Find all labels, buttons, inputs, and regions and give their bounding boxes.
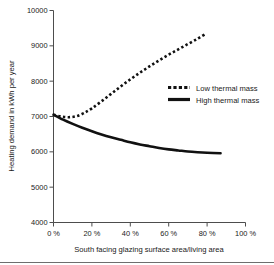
y-axis-title: Heating demand in kWh per year bbox=[7, 60, 16, 171]
x-axis: 0 %20 %40 %60 %80 %100 % bbox=[47, 223, 256, 238]
y-axis-ticks bbox=[50, 11, 54, 223]
plot-series bbox=[54, 34, 221, 153]
y-tick-label: 10000 bbox=[27, 6, 48, 15]
y-tick-label: 4000 bbox=[31, 218, 47, 227]
y-tick-label: 7000 bbox=[31, 112, 47, 121]
x-tick-label: 80 % bbox=[199, 229, 216, 238]
y-tick-label: 6000 bbox=[31, 147, 47, 156]
legend-label-high-thermal-mass: High thermal mass bbox=[196, 96, 260, 105]
x-tick-label: 100 % bbox=[235, 229, 256, 238]
y-axis: 40005000600070008000900010000 bbox=[27, 6, 54, 227]
x-tick-label: 40 % bbox=[122, 229, 139, 238]
x-axis-ticks bbox=[54, 223, 246, 227]
x-axis-title: South facing glazing surface area/living… bbox=[74, 245, 224, 254]
y-tick-label: 5000 bbox=[31, 183, 47, 192]
x-tick-label: 20 % bbox=[83, 229, 100, 238]
series-line-high-thermal-mass bbox=[54, 115, 221, 154]
x-tick-label: 60 % bbox=[160, 229, 177, 238]
y-axis-tick-labels: 40005000600070008000900010000 bbox=[27, 6, 48, 227]
legend-label-low-thermal-mass: Low thermal mass bbox=[196, 84, 258, 93]
x-axis-tick-labels: 0 %20 %40 %60 %80 %100 % bbox=[47, 229, 256, 238]
y-tick-label: 9000 bbox=[31, 41, 47, 50]
chart-figure: 40005000600070008000900010000 0 %20 %40 … bbox=[0, 0, 274, 265]
x-tick-label: 0 % bbox=[47, 229, 60, 238]
legend: Low thermal mass High thermal mass bbox=[168, 84, 260, 105]
series-line-low-thermal-mass bbox=[54, 34, 206, 117]
y-tick-label: 8000 bbox=[31, 77, 47, 86]
chart-canvas: 40005000600070008000900010000 0 %20 %40 … bbox=[0, 0, 274, 265]
